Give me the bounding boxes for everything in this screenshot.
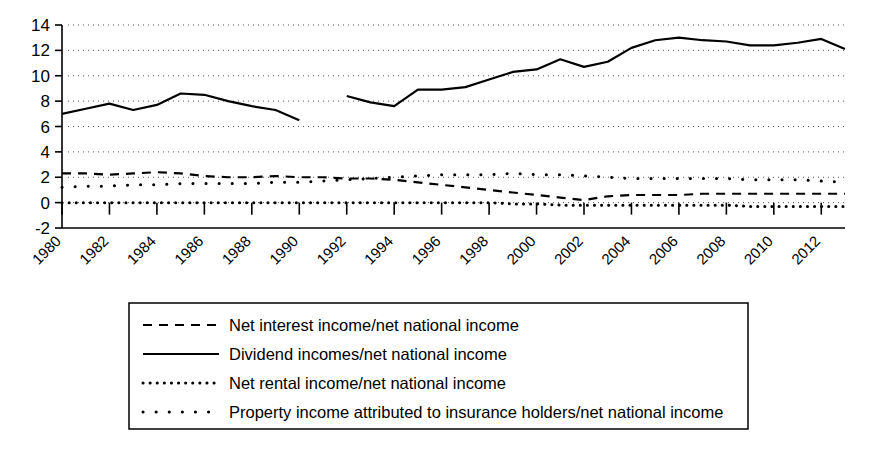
legend-label: Property income attributed to insurance … [229, 403, 723, 421]
line-chart: -202468101214 19801982198419861988199019… [0, 0, 869, 450]
legend-label: Net interest income/net national income [229, 316, 519, 334]
y-tick-label: 8 [41, 92, 50, 111]
y-tick-label: 10 [31, 67, 50, 86]
legend-label: Dividend incomes/net national income [229, 345, 507, 363]
y-tick-label: 12 [31, 41, 50, 60]
y-tick-label: 4 [41, 143, 50, 162]
y-tick-label: 6 [41, 118, 50, 137]
chart-figure: -202468101214 19801982198419861988199019… [0, 0, 869, 450]
y-tick-label: 2 [41, 168, 50, 187]
y-tick-label: 14 [31, 16, 50, 35]
legend-item-3[interactable]: Property income attributed to insurance … [143, 403, 723, 421]
y-tick-label: 0 [41, 194, 50, 213]
legend-label: Net rental income/net national income [229, 374, 506, 392]
